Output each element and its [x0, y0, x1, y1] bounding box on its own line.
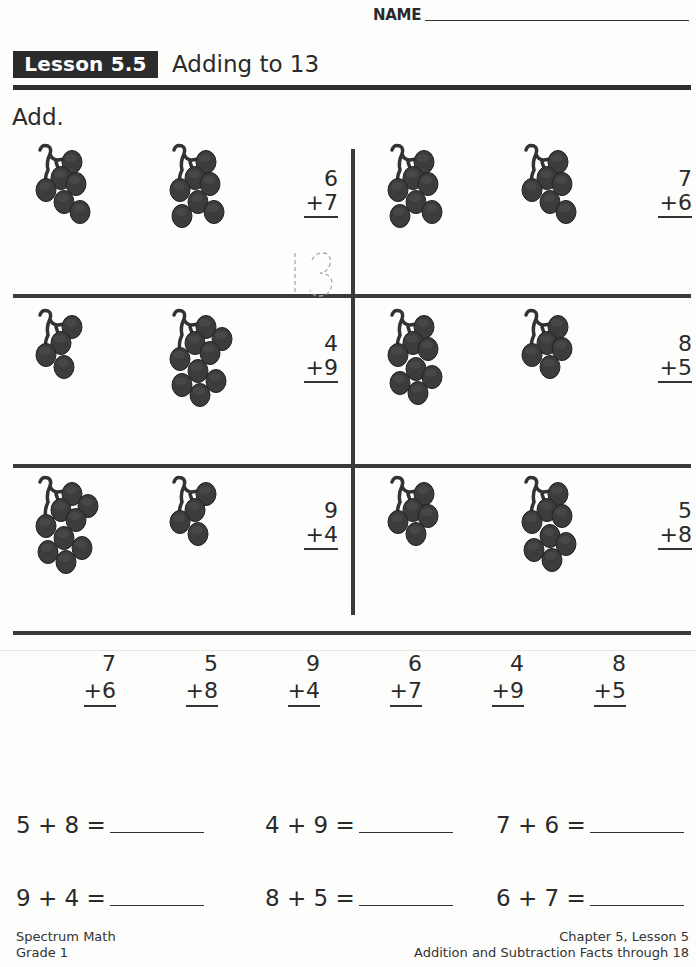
addition-problem: 9+4: [290, 499, 338, 590]
addend-top: 4: [290, 332, 338, 356]
name-field[interactable]: [425, 20, 689, 21]
addend-top: 7: [66, 650, 116, 677]
addend-top: 7: [642, 167, 692, 191]
answer-space[interactable]: [290, 383, 338, 423]
addend-top: 5: [642, 499, 692, 523]
answer-blank[interactable]: [110, 887, 204, 906]
footer-right: Chapter 5, Lesson 5 Addition and Subtrac…: [414, 929, 689, 961]
addend-top: 8: [642, 332, 692, 356]
footer-left: Spectrum Math Grade 1: [16, 929, 116, 961]
answer-space[interactable]: [642, 218, 692, 258]
grape-cluster-icon: [380, 305, 460, 419]
equation: 8 + 5 =: [265, 885, 453, 911]
answer-space[interactable]: [270, 707, 320, 747]
equation: 5 + 8 =: [16, 812, 204, 838]
equation-text: 5 + 8 =: [16, 812, 106, 838]
addend-bottom: +8: [186, 677, 218, 707]
grape-cluster-icon: [28, 140, 108, 254]
grid-divider-3: [13, 631, 691, 635]
answer-blank[interactable]: [359, 887, 453, 906]
addition-problem: 8+5: [576, 650, 626, 747]
addend-bottom: +8: [658, 523, 692, 550]
equation-text: 9 + 4 =: [16, 885, 106, 911]
addend-bottom: +5: [658, 356, 692, 383]
grape-cluster-icon: [162, 305, 242, 419]
equation-text: 4 + 9 =: [265, 812, 355, 838]
addend-bottom: +5: [594, 677, 626, 707]
answer-blank[interactable]: [359, 814, 453, 833]
footer-publisher: Spectrum Math: [16, 929, 116, 945]
addend-top: 4: [474, 650, 524, 677]
equation-text: 7 + 6 =: [496, 812, 586, 838]
grape-cluster-icon: [514, 140, 594, 254]
addition-problem: 7+6: [642, 167, 692, 258]
addend-bottom: +9: [304, 356, 338, 383]
answer-space[interactable]: [290, 550, 338, 590]
lesson-title: Adding to 13: [172, 49, 319, 79]
equation: 9 + 4 =: [16, 885, 204, 911]
grid-vertical-divider: [351, 149, 355, 615]
answer-blank[interactable]: [590, 814, 684, 833]
instruction: Add.: [12, 104, 64, 130]
addend-top: 9: [270, 650, 320, 677]
equation: 4 + 9 =: [265, 812, 453, 838]
footer-grade: Grade 1: [16, 945, 116, 961]
addend-top: 6: [290, 167, 338, 191]
grape-cluster-icon: [514, 472, 594, 586]
footer-topic: Addition and Subtraction Facts through 1…: [414, 945, 689, 961]
answer-blank[interactable]: [590, 887, 684, 906]
addition-problem: 6+7: [290, 167, 338, 258]
dashed-answer-hint: [290, 250, 336, 298]
answer-space[interactable]: [642, 550, 692, 590]
grid-divider-2: [13, 464, 691, 468]
grape-cluster-icon: [28, 472, 108, 586]
addend-top: 8: [576, 650, 626, 677]
lesson-badge: Lesson 5.5: [13, 51, 158, 78]
name-label: NAME: [373, 6, 421, 24]
grape-cluster-icon: [380, 140, 460, 254]
answer-space[interactable]: [168, 707, 218, 747]
addend-bottom: +4: [288, 677, 320, 707]
equation: 7 + 6 =: [496, 812, 684, 838]
answer-space[interactable]: [66, 707, 116, 747]
addend-bottom: +9: [492, 677, 524, 707]
addend-top: 5: [168, 650, 218, 677]
grid-divider-1: [13, 294, 691, 298]
grape-cluster-icon: [162, 472, 242, 586]
addition-problem: 9+4: [270, 650, 320, 747]
addition-problem: 4+9: [474, 650, 524, 747]
equation: 6 + 7 =: [496, 885, 684, 911]
addend-bottom: +4: [304, 523, 338, 550]
addend-bottom: +6: [658, 191, 692, 218]
grape-cluster-icon: [380, 472, 460, 586]
addend-bottom: +7: [390, 677, 422, 707]
answer-space[interactable]: [474, 707, 524, 747]
grape-cluster-icon: [162, 140, 242, 254]
answer-space[interactable]: [372, 707, 422, 747]
answer-space[interactable]: [642, 383, 692, 423]
answer-space[interactable]: [576, 707, 626, 747]
footer-chapter: Chapter 5, Lesson 5: [414, 929, 689, 945]
title-rule: [13, 85, 691, 90]
addition-problem: 5+8: [642, 499, 692, 590]
addend-top: 9: [290, 499, 338, 523]
addition-problem: 7+6: [66, 650, 116, 747]
addition-problem: 6+7: [372, 650, 422, 747]
addition-problem: 4+9: [290, 332, 338, 423]
addend-top: 6: [372, 650, 422, 677]
grape-cluster-icon: [28, 305, 108, 419]
addend-bottom: +7: [304, 191, 338, 218]
addition-problem: 5+8: [168, 650, 218, 747]
grape-cluster-icon: [514, 305, 594, 419]
equation-text: 6 + 7 =: [496, 885, 586, 911]
addition-problem: 8+5: [642, 332, 692, 423]
addend-bottom: +6: [84, 677, 116, 707]
equation-text: 8 + 5 =: [265, 885, 355, 911]
answer-blank[interactable]: [110, 814, 204, 833]
